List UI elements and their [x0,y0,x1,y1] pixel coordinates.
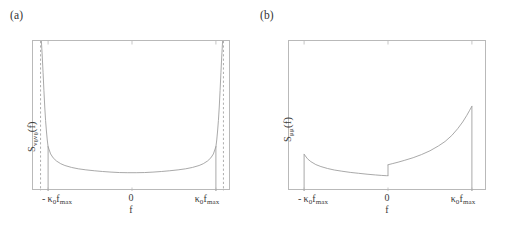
panel-b-y-axis-label: Sμμ(f) [282,117,295,142]
panel-b-y-axis-label-tail: (f) [282,117,293,128]
panel-a-y-axis-label-sub: v0v0 [31,132,39,146]
panel-b-series-1 [388,106,472,165]
panel-a-x-axis-label: f [97,204,165,215]
panel-a-plot-frame [32,40,230,190]
panel-a-series-0 [48,147,216,173]
figure-root: (a) Sv0v0(f) - κ0fmax 0 κ0fmax f (b) Sμμ… [0,0,512,228]
panel-a-y-axis-label: Sv0v0(f) [26,121,39,152]
panel-b-y-axis-label-s: S [282,136,293,142]
panel-a-y-axis-label-tail: (f) [26,121,37,132]
panel-a-series-1 [41,41,48,147]
panel-b-xtick-negative: - κ0fmax [278,193,348,206]
panel-a-y-axis-label-s: S [26,146,37,152]
panel-a-xtick-zero: 0 [97,192,165,203]
panel-b-series-0 [304,154,388,175]
panel-b: (b) Sμμ(f) - κ0fmax 0 κ0fmax f [256,0,512,228]
panel-a: (a) Sv0v0(f) - κ0fmax 0 κ0fmax f [0,0,256,228]
panel-b-label: (b) [260,9,274,21]
panel-b-curves [304,41,472,191]
panel-a-series-2 [216,41,223,147]
panel-b-x-axis-label: f [353,204,421,215]
panel-a-label: (a) [10,9,23,21]
panel-b-xtick-positive: κ0fmax [428,193,498,206]
panel-b-y-axis-label-sub: μμ [287,128,295,136]
panel-a-xtick-positive: κ0fmax [172,193,242,206]
panel-a-curve-svg [33,41,231,191]
panel-b-curve-svg [289,41,487,191]
panel-a-curves [41,41,224,191]
panel-b-plot-frame [288,40,486,190]
panel-b-xtick-zero: 0 [353,192,421,203]
panel-a-xtick-negative: - κ0fmax [22,193,92,206]
